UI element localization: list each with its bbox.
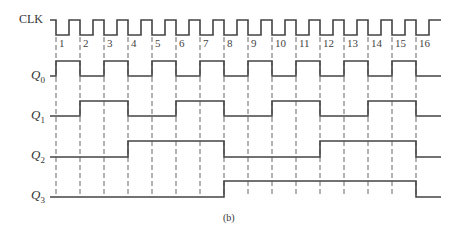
clk-waveform bbox=[50, 20, 441, 35]
figure-caption: (b) bbox=[223, 212, 235, 223]
clock-pulse-9: 9 bbox=[251, 37, 257, 49]
clk-label: CLK bbox=[19, 12, 43, 27]
q0-label: Q0 bbox=[31, 67, 45, 85]
clock-pulse-4: 4 bbox=[131, 37, 137, 49]
clock-pulse-12: 12 bbox=[323, 37, 334, 49]
clock-pulse-16: 16 bbox=[419, 37, 430, 49]
q2-label: Q2 bbox=[31, 147, 45, 165]
q3-waveform bbox=[50, 181, 441, 197]
clock-pulse-15: 15 bbox=[395, 37, 406, 49]
q1-waveform bbox=[50, 101, 441, 116]
clock-pulse-5: 5 bbox=[155, 37, 161, 49]
clock-pulse-14: 14 bbox=[371, 37, 382, 49]
clock-pulse-8: 8 bbox=[227, 37, 233, 49]
q3-label: Q3 bbox=[31, 187, 45, 205]
clock-pulse-7: 7 bbox=[203, 37, 209, 49]
clock-pulse-3: 3 bbox=[107, 37, 113, 49]
q0-waveform bbox=[50, 61, 441, 76]
q1-label: Q1 bbox=[31, 107, 45, 125]
q2-waveform bbox=[50, 141, 441, 157]
clock-pulse-2: 2 bbox=[83, 37, 89, 49]
clock-pulse-13: 13 bbox=[347, 37, 358, 49]
clock-pulse-1: 1 bbox=[59, 37, 65, 49]
clock-pulse-11: 11 bbox=[299, 37, 310, 49]
timing-diagram bbox=[0, 0, 457, 235]
clock-pulse-6: 6 bbox=[179, 37, 185, 49]
clock-pulse-10: 10 bbox=[275, 37, 286, 49]
